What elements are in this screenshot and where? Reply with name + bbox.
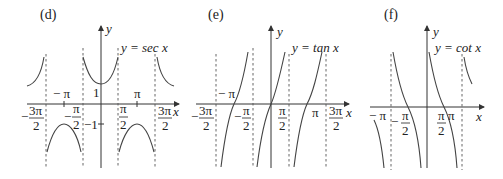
tick-neg-pi-over-2: − π 2 [64,101,81,132]
svg-text:3π: 3π [158,103,172,118]
svg-text:2: 2 [402,123,409,138]
tick-3pi-over-2: 3π 2 [158,103,172,133]
tick-neg-pi-over-2: − π 2 [234,103,251,133]
sec-branch [27,57,44,86]
panel-label-d: (d) [40,7,57,23]
x-axis-label: x [172,104,179,119]
svg-text:−: − [234,109,241,124]
figure-canvas: (d) y x y = sec x − π π 1 −1 − 3π 2 [0,0,503,179]
function-label: y = cot x [433,40,481,55]
cot-branch [374,120,384,168]
svg-text:2: 2 [33,118,40,133]
tick-neg-pi: − π [369,108,387,123]
svg-text:−: − [191,109,198,124]
svg-text:π: π [73,101,80,116]
tick-pi-over-2: π 2 [278,103,287,133]
svg-text:3π: 3π [199,103,213,118]
svg-text:π: π [438,108,445,123]
y-axis-label: y [104,21,112,36]
tick-pi: π [134,86,141,101]
tick-one: 1 [93,85,100,100]
panel-label-e: (e) [208,7,224,23]
svg-text:2: 2 [333,118,340,133]
svg-text:2: 2 [73,117,80,132]
panel-label-f: (f) [384,7,398,23]
svg-text:−: − [64,109,71,124]
svg-text:2: 2 [279,118,286,133]
x-axis-label: x [475,109,482,124]
y-axis-label: y [275,24,283,39]
function-label: y = sec x [119,40,168,55]
tick-neg-3pi-over-2: − 3π 2 [21,103,44,133]
svg-text:2: 2 [203,118,210,133]
chart-sec: (d) y x y = sec x − π π 1 −1 − 3π 2 [21,7,179,168]
sec-branch [157,57,174,86]
tick-3pi-over-2: 3π 2 [329,103,343,133]
chart-tan: (e) y x y = tan x − π π − 3π 2 − π 2 π [191,7,352,168]
svg-text:π: π [243,103,250,118]
tick-neg-one: −1 [84,117,98,132]
svg-text:π: π [279,103,286,118]
svg-text:2: 2 [243,118,250,133]
cot-branch [464,57,472,84]
svg-text:π: π [120,101,127,116]
tick-neg-pi: − π [53,86,71,101]
svg-text:2: 2 [120,117,127,132]
tick-pi: π [312,105,319,120]
tick-pi: π [448,108,455,123]
y-axis-label: y [431,24,439,39]
svg-text:2: 2 [438,123,445,138]
svg-text:−: − [21,109,28,124]
svg-text:π: π [402,108,409,123]
svg-text:−: − [391,114,398,129]
chart-cot: (f) y x y = cot x − π π − π 2 π 2 [369,7,484,170]
function-label: y = tan x [290,40,339,55]
tick-neg-3pi-over-2: − 3π 2 [191,103,214,133]
svg-text:3π: 3π [329,103,343,118]
tick-pi-over-2: π 2 [119,101,128,132]
x-axis-label: x [345,105,352,120]
tick-neg-pi-over-2: − π 2 [391,108,410,138]
tick-pi-over-2: π 2 [437,108,446,138]
tick-neg-pi: − π [218,86,236,101]
svg-text:2: 2 [162,118,169,133]
svg-text:3π: 3π [29,103,43,118]
